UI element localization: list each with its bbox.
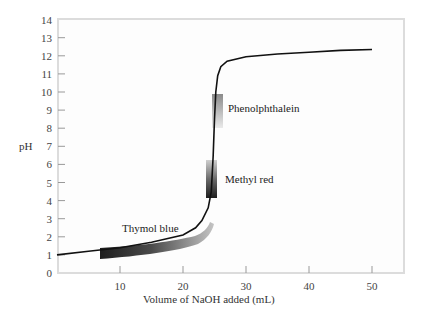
titration-chart: 01234567891011121314 1020304050 Thymol b… <box>0 0 427 317</box>
y-tick-label: 7 <box>47 140 53 152</box>
y-tick-label: 6 <box>47 158 53 170</box>
y-tick-label: 12 <box>41 50 52 62</box>
y-tick-label: 2 <box>47 231 53 243</box>
methyl-red-label: Methyl red <box>225 173 274 185</box>
y-tick-label: 14 <box>41 14 53 26</box>
plot-frame <box>58 19 404 273</box>
thymol-blue-label: Thymol blue <box>122 222 179 234</box>
y-tick-label: 4 <box>47 195 53 207</box>
phenolphthalein-label: Phenolphthalein <box>228 102 300 114</box>
y-tick-label: 1 <box>47 249 53 261</box>
y-tick-label: 9 <box>47 104 53 116</box>
x-tick-label: 40 <box>304 280 316 292</box>
y-tick-label: 5 <box>47 177 53 189</box>
y-tick-label: 0 <box>47 267 53 279</box>
y-tick-label: 10 <box>41 86 53 98</box>
x-tick-label: 30 <box>241 280 253 292</box>
y-tick-label: 13 <box>41 32 53 44</box>
x-tick-label: 50 <box>367 280 379 292</box>
x-axis-title: Volume of NaOH added (mL) <box>143 293 275 306</box>
y-axis-title: pH <box>19 140 33 152</box>
x-tick-label: 10 <box>115 280 127 292</box>
y-tick-label: 3 <box>47 213 53 225</box>
y-tick-label: 8 <box>47 122 53 134</box>
y-tick-label: 11 <box>41 68 52 80</box>
x-tick-label: 20 <box>178 280 190 292</box>
